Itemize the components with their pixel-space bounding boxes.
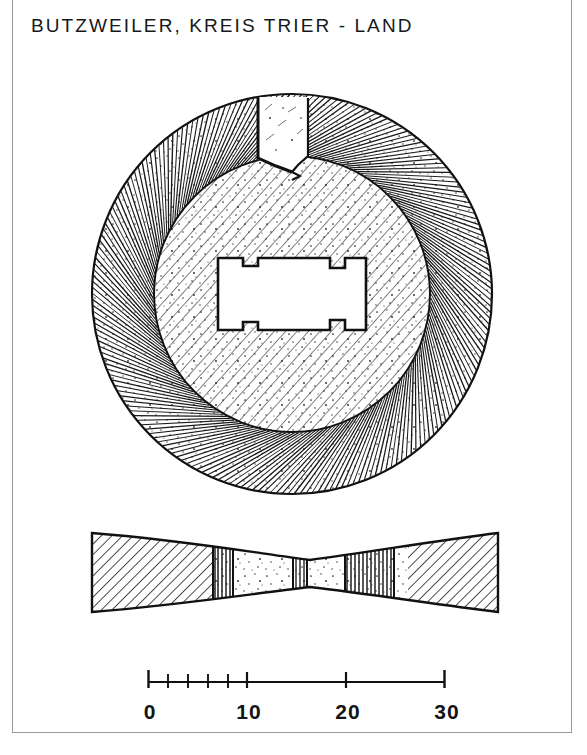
plan-view: [80, 80, 510, 510]
archaeological-drawing: [0, 0, 587, 755]
scale-bar-labels: 0 10 20 30: [0, 700, 587, 732]
section-view: [85, 525, 510, 620]
figure-page: BUTZWEILER, KREIS TRIER - LAND: [0, 0, 587, 755]
scale-label-0: 0: [144, 700, 157, 724]
scale-bar: [148, 670, 445, 688]
scale-label-20: 20: [335, 700, 360, 724]
scale-label-30: 30: [434, 700, 459, 724]
section-core-zone: [213, 525, 408, 620]
central-perforation: [218, 258, 366, 330]
scale-label-10: 10: [236, 700, 261, 724]
